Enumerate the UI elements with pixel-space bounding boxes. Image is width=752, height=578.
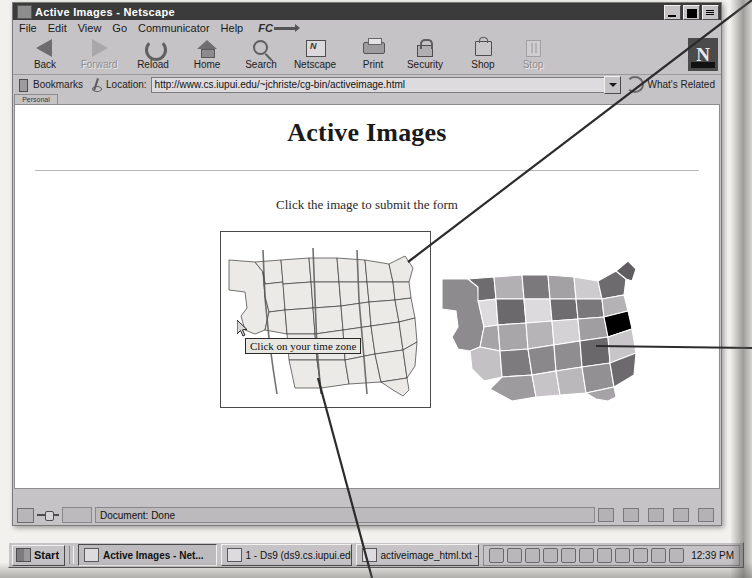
taskbar-item-label: Active Images - Net... <box>103 550 204 561</box>
maps-area: Click on your time zone <box>15 231 719 431</box>
us-shaded-states-map[interactable] <box>440 251 655 401</box>
status-icon-4[interactable] <box>673 508 689 522</box>
monitor-icon[interactable] <box>651 548 666 563</box>
title-bar: Active Images - Netscape <box>13 3 721 20</box>
home-button-label: Home <box>194 59 221 70</box>
url-input[interactable]: http://www.cs.iupui.edu/~jchriste/cg-bin… <box>151 77 604 93</box>
window-title: Active Images - Netscape <box>35 6 175 18</box>
printer-tray-icon[interactable] <box>669 548 684 563</box>
key-icon[interactable] <box>633 548 648 563</box>
headset-icon[interactable] <box>579 548 594 563</box>
back-button[interactable]: Back <box>19 38 71 73</box>
fc-brand-label: FC <box>258 22 273 34</box>
disk-icon[interactable] <box>597 548 612 563</box>
maximize-button[interactable] <box>683 5 700 20</box>
location-bar: Bookmarks Location: http://www.cs.iupui.… <box>13 75 721 94</box>
search-button-label: Search <box>245 59 277 70</box>
stop-button-label: Stop <box>523 59 544 70</box>
netscape-icon <box>302 38 328 58</box>
search-button[interactable]: Search <box>235 38 287 73</box>
taskbar-item-label: 1 - Ds9 (ds9.cs.iupui.edu) <box>246 550 352 561</box>
us-outline-map-graphic <box>225 238 425 398</box>
netscape-icon <box>84 548 99 562</box>
menu-item-file[interactable]: File <box>19 22 37 34</box>
security-button[interactable]: Security <box>399 38 451 73</box>
map-tooltip: Click on your time zone <box>245 338 361 354</box>
taskbar-clock[interactable]: 12:39 PM <box>691 550 734 561</box>
whats-related-button[interactable]: What's Related <box>626 76 716 93</box>
browser-window: Active Images - Netscape File Edit View … <box>12 2 722 526</box>
lock-icon <box>412 38 438 58</box>
forward-button-label: Forward <box>81 59 118 70</box>
status-message: Document: Done <box>95 507 595 523</box>
horizontal-rule <box>35 170 699 171</box>
modem-icon[interactable] <box>543 548 558 563</box>
window-controls[interactable] <box>664 5 719 20</box>
print-button-label: Print <box>363 59 384 70</box>
scanned-page: Active Images - Netscape File Edit View … <box>0 0 752 578</box>
printer-icon <box>360 38 386 58</box>
bookmarks-label[interactable]: Bookmarks <box>33 79 83 90</box>
status-icon-2[interactable] <box>623 508 639 522</box>
shop-button-label: Shop <box>471 59 494 70</box>
navigation-toolbar: Back Forward Reload Home Search Netscape <box>13 36 721 75</box>
reload-button[interactable]: Reload <box>127 38 179 73</box>
close-button[interactable] <box>702 5 719 20</box>
menu-item-view[interactable]: View <box>78 22 102 34</box>
menu-item-edit[interactable]: Edit <box>48 22 67 34</box>
stop-icon <box>520 38 546 58</box>
instruction-text: Click the image to submit the form <box>15 197 719 213</box>
shopping-bag-icon <box>470 38 496 58</box>
clock-tray-icon[interactable] <box>615 548 630 563</box>
menu-item-go[interactable]: Go <box>112 22 127 34</box>
us-timezone-outline-map[interactable]: Click on your time zone <box>220 231 431 408</box>
page-edge-shadow-right <box>730 0 752 578</box>
home-button[interactable]: Home <box>181 38 233 73</box>
back-arrow-icon <box>32 38 58 58</box>
arrow-icon <box>274 27 296 30</box>
whats-related-label: What's Related <box>648 79 716 90</box>
forward-button[interactable]: Forward <box>73 38 125 73</box>
status-icon-5[interactable] <box>698 508 714 522</box>
windows-flag-icon <box>16 548 31 562</box>
fc-brand-badge: FC <box>258 22 296 34</box>
page-title: Active Images <box>15 118 719 148</box>
reload-icon <box>140 38 166 58</box>
pointer-icon[interactable] <box>561 548 576 563</box>
status-tray <box>598 508 720 522</box>
page-content: Active Images Click the image to submit … <box>14 104 720 489</box>
page-edge-shadow-bottom <box>0 562 752 578</box>
back-button-label: Back <box>34 59 56 70</box>
taskbar-item-label: activeimage_html.txt - No... <box>381 550 480 561</box>
minimize-button[interactable] <box>664 5 681 20</box>
page-proxy-icon[interactable] <box>91 78 103 91</box>
bookmark-icon[interactable] <box>17 78 30 91</box>
location-label: Location: <box>106 79 147 90</box>
menu-item-communicator[interactable]: Communicator <box>138 22 210 34</box>
url-dropdown-button[interactable] <box>604 76 621 94</box>
shop-button[interactable]: Shop <box>457 38 509 73</box>
menu-item-help[interactable]: Help <box>221 22 244 34</box>
padlock-icon[interactable] <box>17 508 34 523</box>
security-button-label: Security <box>407 59 443 70</box>
volume-icon[interactable] <box>507 548 522 563</box>
menu-bar: File Edit View Go Communicator Help FC <box>13 20 721 36</box>
whats-related-icon <box>626 76 644 93</box>
display-icon[interactable] <box>489 548 504 563</box>
netscape-button[interactable]: Netscape <box>289 38 341 73</box>
netscape-document-icon <box>17 5 32 19</box>
notepad-icon <box>362 548 377 562</box>
search-icon <box>248 38 274 58</box>
print-button[interactable]: Print <box>347 38 399 73</box>
progress-area <box>62 507 92 523</box>
network-icon[interactable] <box>525 548 540 563</box>
forward-arrow-icon <box>86 38 112 58</box>
terminal-icon <box>227 548 242 562</box>
netscape-logo[interactable]: N <box>688 38 718 71</box>
netscape-logo-label: N <box>696 46 710 64</box>
status-icon-3[interactable] <box>648 508 664 522</box>
logo-wave <box>691 62 715 68</box>
start-button-label: Start <box>34 549 59 561</box>
status-icon-1[interactable] <box>598 508 614 522</box>
stop-button[interactable]: Stop <box>507 38 559 73</box>
